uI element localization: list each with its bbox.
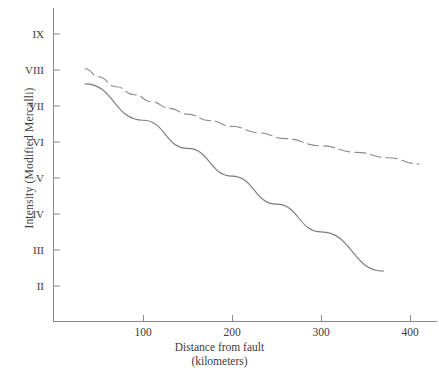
y-tick-label: IV xyxy=(0,208,44,220)
y-tick-label: V xyxy=(0,172,44,184)
y-axis-ticks xyxy=(54,34,61,286)
y-tick-label: VIII xyxy=(0,64,44,76)
caption-edge-text xyxy=(0,371,439,379)
chart-figure: IIIIIIVVVIVIIVIIIIX 100200300400 Intensi… xyxy=(0,0,439,379)
data-series-group xyxy=(85,69,419,271)
x-axis-title: Distance from fault (kilometers) xyxy=(0,341,439,368)
series-upper-curve xyxy=(85,69,419,164)
y-tick-label: III xyxy=(0,244,44,256)
x-tick-label: 200 xyxy=(202,326,262,338)
y-axis-tick-labels: IIIIIIVVVIVIIVIIIIX xyxy=(0,0,44,379)
series-lower-line xyxy=(85,84,383,271)
x-tick-label: 100 xyxy=(113,326,173,338)
y-tick-label: II xyxy=(0,280,44,292)
x-axis-title-main: Distance from fault xyxy=(0,341,439,355)
x-tick-label: 300 xyxy=(291,326,351,338)
x-axis-title-units: (kilometers) xyxy=(0,355,439,369)
x-tick-label: 400 xyxy=(380,326,439,338)
axes-group xyxy=(53,8,437,322)
y-tick-label: IX xyxy=(0,28,44,40)
y-tick-label: VI xyxy=(0,136,44,148)
y-axis-title: Intensity (Modified Mercalli) xyxy=(23,33,35,283)
chart-plot-area xyxy=(0,0,439,379)
x-axis-ticks xyxy=(144,315,411,322)
y-tick-label: VII xyxy=(0,100,44,112)
